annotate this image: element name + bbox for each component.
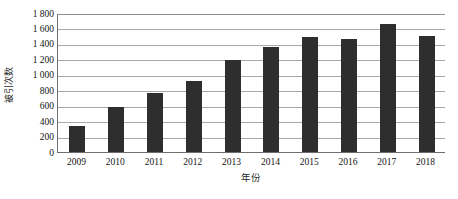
y-axis-title: 被引次数	[2, 55, 16, 115]
x-axis-title: 年份	[57, 172, 445, 184]
x-axis-tick-label: 2010	[96, 156, 135, 168]
bar[interactable]	[69, 126, 85, 152]
y-axis-tick-label: 400	[18, 118, 54, 128]
bar-chart: 被引次数 1 8001 6001 4001 2001 0008006004002…	[0, 0, 458, 199]
bar-slot	[174, 14, 213, 152]
bar[interactable]	[225, 60, 241, 152]
bar[interactable]	[341, 39, 357, 152]
bar[interactable]	[263, 47, 279, 152]
bar-slot	[291, 14, 330, 152]
bar-slot	[407, 14, 446, 152]
y-axis-tick-label: 1 000	[18, 71, 54, 81]
bar-slot	[252, 14, 291, 152]
bar[interactable]	[380, 24, 396, 152]
y-axis-tick-label: 600	[18, 102, 54, 112]
x-axis-tick-label: 2009	[57, 156, 96, 168]
y-axis-tick-label: 1 200	[18, 56, 54, 66]
bar-slot	[136, 14, 175, 152]
bar-slot	[58, 14, 97, 152]
bar[interactable]	[108, 107, 124, 152]
plot-area	[57, 14, 445, 153]
bar[interactable]	[147, 93, 163, 152]
x-axis-tick-label: 2015	[290, 156, 329, 168]
bar-slot	[213, 14, 252, 152]
x-axis-tick-label: 2014	[251, 156, 290, 168]
y-axis-tick-label: 800	[18, 87, 54, 97]
bar-slot	[330, 14, 369, 152]
x-axis-tick-label: 2016	[329, 156, 368, 168]
y-axis-tick-label: 1 800	[18, 10, 54, 20]
bar-slot	[97, 14, 136, 152]
bar[interactable]	[186, 81, 202, 152]
y-axis-tick-labels: 1 8001 6001 4001 2001 0008006004002000	[18, 8, 54, 160]
y-axis-tick-label: 200	[18, 133, 54, 143]
x-axis-tick-label: 2011	[135, 156, 174, 168]
y-axis-tick-label: 0	[18, 149, 54, 159]
x-axis-tick-label: 2017	[367, 156, 406, 168]
x-axis-tick-label: 2013	[212, 156, 251, 168]
x-axis-tick-label: 2018	[406, 156, 445, 168]
x-axis-tick-labels: 2009201020112012201320142015201620172018	[57, 156, 445, 170]
y-axis-tick-label: 1 400	[18, 40, 54, 50]
bar[interactable]	[419, 36, 435, 152]
bar[interactable]	[302, 37, 318, 152]
y-axis-tick-label: 1 600	[18, 25, 54, 35]
bars-layer	[58, 14, 445, 152]
x-axis-tick-label: 2012	[173, 156, 212, 168]
bar-slot	[368, 14, 407, 152]
